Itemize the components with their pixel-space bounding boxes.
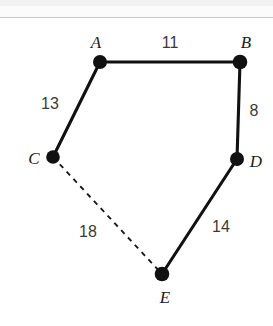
node-label-d: D	[250, 153, 262, 170]
edge-d-e	[162, 159, 237, 274]
graph-svg	[0, 0, 273, 326]
node-a	[93, 55, 107, 69]
edge-c-e	[53, 157, 162, 274]
node-c	[46, 150, 60, 164]
edge-weight-d-e: 14	[212, 219, 230, 235]
diagram-canvas: A B C D E 11 13 8 14 18	[0, 0, 273, 326]
edge-weight-c-e: 18	[79, 224, 97, 240]
edge-weight-a-c: 13	[41, 96, 59, 112]
node-b	[233, 55, 248, 70]
node-label-b: B	[241, 34, 252, 51]
node-label-a: A	[91, 34, 102, 51]
node-group	[46, 55, 247, 282]
edge-b-d	[237, 62, 240, 159]
edge-a-c	[53, 62, 100, 157]
edge-weight-b-d: 8	[250, 103, 259, 119]
node-d	[230, 152, 244, 166]
node-label-e: E	[160, 289, 171, 306]
edge-group	[53, 62, 240, 274]
node-e	[155, 267, 170, 282]
node-label-c: C	[28, 150, 40, 167]
edge-weight-a-b: 11	[162, 35, 179, 51]
